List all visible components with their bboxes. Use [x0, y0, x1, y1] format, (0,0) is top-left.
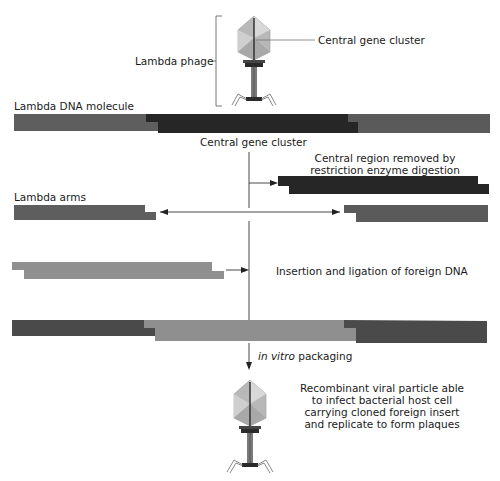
recombinant-line1: Recombinant viral particle able — [297, 382, 467, 394]
lambda-left-arm — [14, 205, 156, 220]
lambda-dna-molecule — [14, 114, 490, 133]
packaging-text: packaging — [295, 350, 352, 362]
recombinant-line3: carrying cloned foreign insert — [297, 406, 467, 418]
recombinant-line2: to infect bacterial host cell — [297, 394, 467, 406]
central-region-removed-line1: Central region removed by — [310, 152, 460, 164]
lambda-right-arm — [344, 205, 488, 222]
lambda-phage-label: Lambda phage — [135, 55, 214, 67]
central-gene-cluster-label: Central gene cluster — [200, 136, 307, 148]
lambda-dna-molecule-label: Lambda DNA molecule — [14, 100, 134, 112]
central-region-removed-line2: restriction enzyme digestion — [310, 164, 460, 176]
central-gene-cluster-top-label: Central gene cluster — [318, 34, 425, 46]
insertion-ligation-label: Insertion and ligation of foreign DNA — [276, 265, 468, 277]
recombinant-particle-label: Recombinant viral particle able to infec… — [297, 382, 467, 430]
central-region-removed-label: Central region removed by restriction en… — [310, 152, 460, 176]
in-vitro-text: in vitro — [258, 350, 295, 362]
recombinant-line4: and replicate to form plaques — [297, 418, 467, 430]
recombinant-phage-icon — [227, 380, 273, 473]
lambda-arms-label: Lambda arms — [14, 191, 86, 203]
in-vitro-packaging-label: in vitro packaging — [258, 350, 352, 362]
recombinant-dna-molecule — [12, 320, 487, 343]
foreign-dna-fragment — [12, 262, 224, 279]
central-region-fragment — [278, 176, 489, 194]
lambda-phage-icon — [212, 16, 315, 106]
